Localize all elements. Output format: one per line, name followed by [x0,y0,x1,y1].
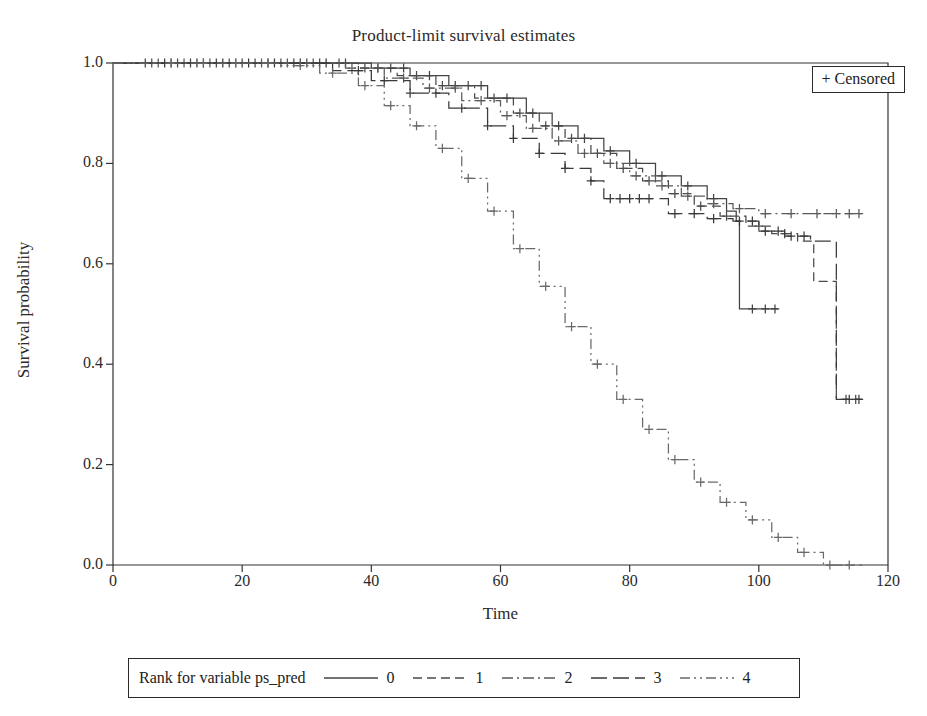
censored-mark [684,191,692,200]
censored-mark [199,58,207,67]
censored-mark [399,73,407,82]
censored-mark [483,121,491,130]
censored-mark [503,111,511,120]
legend-line-swatch-3 [589,671,647,685]
survival-curve-4 [113,58,862,569]
censored-mark [561,164,569,173]
censored-mark [490,94,498,103]
chart-figure: Product-limit survival estimates Surviva… [0,0,927,716]
censored-mark [658,181,666,190]
censored-mark [348,63,356,72]
censored-mark [606,146,614,155]
legend-item-2[interactable]: 2 [500,669,583,687]
legend-label-2: 2 [565,669,573,687]
censored-mark [761,209,769,218]
censored-mark [813,209,821,218]
censored-mark [671,189,679,198]
y-axis-label: Survival probability [14,90,34,530]
censored-mark [787,209,795,218]
legend-line-swatch-1 [411,671,469,685]
censored-mark [697,201,705,210]
censored-mark [399,63,407,72]
censored-mark [587,176,595,185]
censored-mark [554,136,562,145]
censored-mark [774,227,782,236]
legend-label-4: 4 [743,669,751,687]
censored-mark [645,194,653,203]
censored-mark [464,81,472,90]
x-axis-label: Time [113,604,888,624]
legend-label-1: 1 [476,669,484,687]
censored-mark [761,227,769,236]
censored-mark [658,171,666,180]
censored-mark [722,498,730,507]
x-tick-label: 0 [90,572,136,590]
censored-mark [593,360,601,369]
x-tick-label: 60 [478,572,524,590]
legend-item-1[interactable]: 1 [411,669,494,687]
censored-mark [635,194,643,203]
legend-item-0[interactable]: 0 [322,669,405,687]
censored-mark [580,149,588,158]
censored-mark [567,322,575,331]
censored-mark [619,395,627,404]
censored-mark [709,199,717,208]
censored-mark [771,304,779,313]
censored-mark [425,84,433,93]
legend-line-swatch-2 [500,671,558,685]
legend-box: Rank for variable ps_pred 01234 [128,658,800,698]
censored-mark [458,104,466,113]
censored-mark [387,101,395,110]
censored-mark [354,66,362,75]
censored-mark [477,96,485,105]
censored-mark [625,194,633,203]
censored-mark [509,134,517,143]
legend-title: Rank for variable ps_pred [139,669,306,687]
censored-mark [632,159,640,168]
censored-mark [412,71,420,80]
survival-curve-0 [113,58,779,313]
censored-mark [529,124,537,133]
censored-mark [645,425,653,434]
y-tick-label: 0.2 [55,455,103,473]
censored-mark [619,164,627,173]
censored-mark [697,478,705,487]
censored-mark [535,149,543,158]
censored-mark [387,63,395,72]
censored-mark [645,176,653,185]
x-tick-label: 120 [865,572,911,590]
x-tick-label: 80 [607,572,653,590]
censored-mark [748,515,756,524]
censored-mark [374,63,382,72]
censored-mark [380,76,388,85]
censored-mark [709,214,717,223]
censored-mark [406,89,414,98]
censored-mark [296,61,304,70]
censored-mark [671,209,679,218]
censored-mark [438,144,446,153]
legend-line-swatch-0 [322,671,380,685]
survival-curves-svg [0,0,927,640]
censored-mark [855,209,863,218]
censored-mark [684,181,692,190]
y-tick-label: 0.0 [55,555,103,573]
censored-mark [826,560,834,569]
legend-item-3[interactable]: 3 [589,669,672,687]
x-tick-label: 20 [219,572,265,590]
censored-mark [800,548,808,557]
legend-label-3: 3 [654,669,662,687]
censored-mark [690,209,698,218]
censored-mark [722,212,730,221]
censored-mark [477,81,485,90]
legend-item-4[interactable]: 4 [678,669,761,687]
censored-mark [845,560,853,569]
y-tick-label: 0.4 [55,354,103,372]
censored-mark [264,58,272,67]
censored-mark [322,58,330,67]
censored-mark [516,109,524,118]
y-axis-tick-labels: 0.00.20.40.60.81.0 [47,0,103,640]
censored-mark [438,81,446,90]
censored-mark [451,84,459,93]
censored-mark [464,174,472,183]
censored-mark [748,304,756,313]
